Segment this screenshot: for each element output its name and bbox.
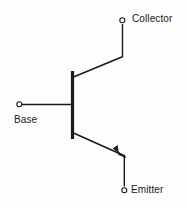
emitter-terminal-label: Emitter [131,185,163,195]
emitter-terminal-node[interactable] [122,188,127,193]
collector-terminal-label: Collector [132,14,172,24]
base-terminal-label: Base [14,115,37,125]
emitter-diagonal-lead [74,133,126,156]
collector-diagonal-lead [74,57,124,78]
base-terminal-node[interactable] [17,102,22,107]
transistor-schematic-canvas: Collector Base Emitter [0,0,187,208]
npn-transistor-symbol [0,0,187,208]
collector-terminal-node[interactable] [120,18,125,23]
